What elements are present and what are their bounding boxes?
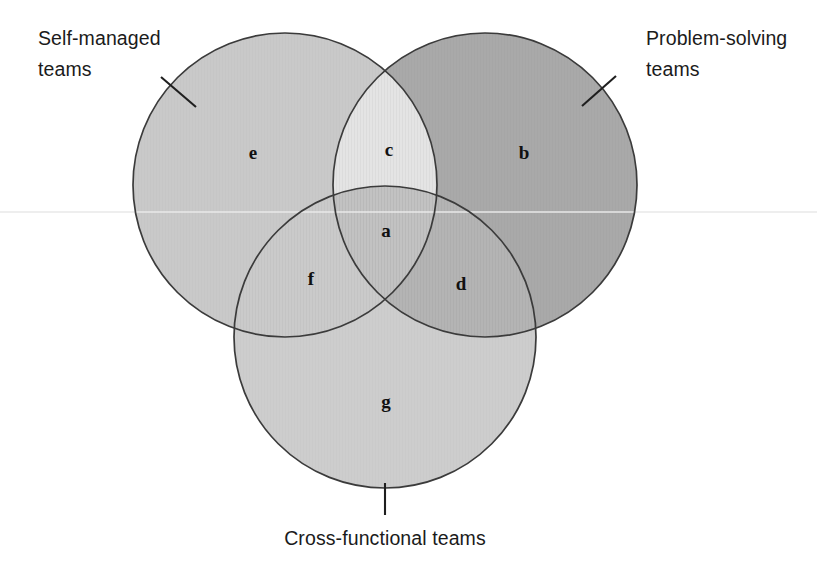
venn-diagram-root: e b g c f d a Self-managed teams Problem…	[0, 0, 817, 574]
region-letter-a: a	[381, 220, 391, 241]
callout-problem-solving-line1: Problem-solving	[646, 27, 787, 49]
region-letter-f: f	[308, 268, 315, 289]
region-letter-g: g	[381, 391, 391, 412]
region-letter-b: b	[519, 142, 530, 163]
region-letter-d: d	[456, 273, 467, 294]
callout-self-managed-line2: teams	[38, 58, 92, 80]
callout-label-cross-functional: Cross-functional teams	[284, 527, 486, 549]
region-letter-c: c	[385, 139, 393, 160]
callout-self-managed-line1: Self-managed	[38, 27, 161, 49]
callout-problem-solving-line2: teams	[646, 58, 700, 80]
region-letter-e: e	[249, 142, 257, 163]
venn-diagram-canvas: e b g c f d a Self-managed teams Problem…	[0, 0, 817, 574]
callout-cross-functional-line1: Cross-functional teams	[284, 527, 486, 549]
